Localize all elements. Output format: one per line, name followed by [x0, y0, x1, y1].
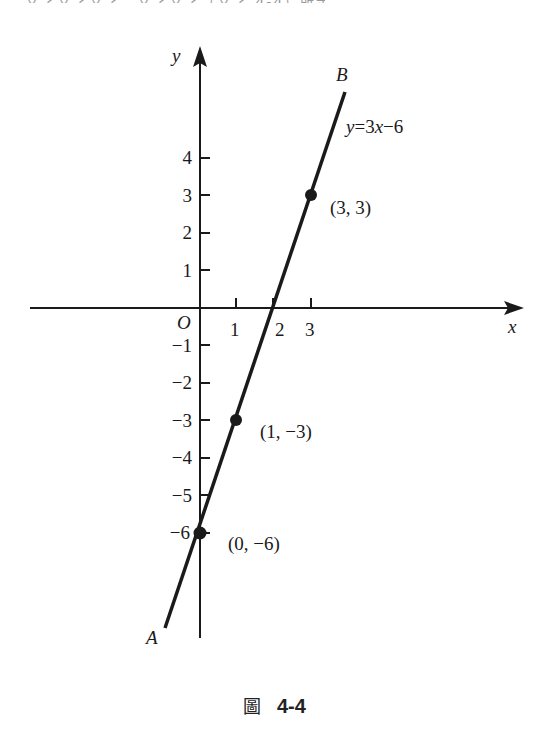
y-tick-label: −4 — [172, 447, 193, 468]
y-axis — [193, 46, 207, 638]
y-tick-label: 4 — [183, 147, 193, 168]
y-tick-label: 1 — [183, 260, 193, 281]
point-label-3-3: (3, 3) — [330, 197, 371, 219]
point-label-0-neg6: (0, −6) — [228, 533, 280, 555]
equation-rest: =3 — [354, 116, 374, 137]
y-tick-label: −5 — [172, 485, 192, 506]
y-tick-label: −3 — [172, 410, 192, 431]
point-1-neg3 — [230, 414, 242, 426]
origin-label: O — [177, 312, 191, 333]
x-tick-label: 3 — [305, 319, 315, 340]
y-tick-label: −2 — [172, 372, 192, 393]
point-b-label: B — [336, 64, 348, 85]
y-tick-label: −6 — [170, 522, 190, 543]
figure-caption: 圖 4-4 — [0, 692, 549, 718]
y-ticks — [200, 158, 210, 533]
y-tick-label: 3 — [183, 185, 193, 206]
figure-caption-number: 4-4 — [277, 695, 306, 717]
x-tick-label: 2 — [275, 319, 285, 340]
point-label-1-neg3: (1, −3) — [260, 421, 312, 443]
point-0-neg6 — [194, 527, 207, 540]
y-tick-label: −1 — [172, 335, 192, 356]
equation-label: y=3x−6 — [344, 116, 403, 137]
x-tick-label: 1 — [230, 319, 240, 340]
point-3-3 — [305, 189, 317, 201]
figure-caption-word: 圖 — [243, 696, 261, 717]
y-axis-label: y — [170, 45, 181, 66]
coordinate-plane: y x O B A y=3x−6 1 2 3 4 3 2 1 −1 −2 −3 … — [0, 0, 549, 734]
x-axis — [30, 301, 524, 315]
y-tick-label: 2 — [183, 222, 193, 243]
point-a-label: A — [144, 627, 158, 648]
x-axis-label: x — [507, 316, 517, 337]
